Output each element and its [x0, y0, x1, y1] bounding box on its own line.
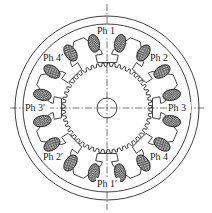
label-ph1-prime: Ph 1′	[96, 178, 120, 189]
coil-winding	[61, 152, 80, 173]
label-ph4-text: Ph 4	[150, 151, 168, 162]
coil-winding	[32, 88, 52, 102]
label-ph4-prime-text: Ph 4′	[43, 52, 63, 63]
coil-winding	[162, 114, 182, 128]
label-ph1: Ph 1	[96, 25, 118, 36]
coil-winding	[151, 62, 172, 81]
label-ph2-prime-text: Ph 2′	[43, 151, 63, 162]
label-ph3: Ph 3	[167, 102, 191, 113]
coil-winding	[162, 88, 182, 102]
label-ph4-prime: Ph 4′	[43, 52, 63, 63]
coil-winding	[87, 33, 101, 53]
label-ph1-prime-text: Ph 1′	[97, 178, 117, 189]
coil-winding	[41, 62, 62, 81]
label-ph2-prime: Ph 2′	[43, 151, 63, 162]
stepper-motor-diagram: Ph 1 Ph 1′ Ph 2 Ph 2′ Ph 3 Ph 3′ Ph 4 Ph…	[0, 0, 212, 213]
label-ph3-text: Ph 3	[168, 102, 186, 113]
coil-winding	[113, 33, 127, 53]
coil-winding	[32, 114, 52, 128]
coil-winding	[61, 42, 80, 63]
label-ph3-prime: Ph 3′	[24, 102, 50, 113]
label-ph2: Ph 2	[150, 52, 168, 63]
label-ph3-prime-text: Ph 3′	[25, 102, 45, 113]
label-ph1-text: Ph 1	[97, 25, 115, 36]
label-ph4: Ph 4	[150, 151, 168, 162]
label-ph2-text: Ph 2	[150, 52, 168, 63]
